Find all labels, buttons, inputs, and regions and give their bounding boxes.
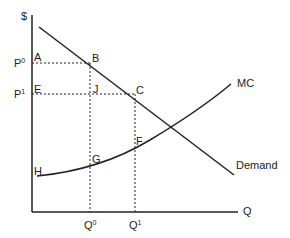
- demand-curve-label: Demand: [236, 160, 278, 171]
- y-axis-label: $: [21, 11, 27, 22]
- mc-curve: [37, 84, 231, 176]
- point-j-label: J: [93, 84, 99, 95]
- quantity-q1-label: Q1: [129, 220, 141, 231]
- point-h-label: H: [34, 166, 42, 177]
- x-axis-label: Q: [243, 206, 252, 217]
- price-p0-label: P0: [14, 58, 25, 69]
- point-b-label: B: [92, 53, 99, 64]
- point-e-label: E: [34, 84, 41, 95]
- point-a-label: A: [34, 52, 41, 63]
- demand-curve: [39, 27, 234, 175]
- point-c-label: C: [136, 85, 144, 96]
- mc-curve-label: MC: [237, 78, 254, 89]
- point-f-label: F: [136, 136, 143, 147]
- diagram-canvas: [0, 0, 290, 238]
- price-p1-label: P1: [14, 89, 25, 100]
- point-g-label: G: [92, 154, 101, 165]
- quantity-q0-label: Q0: [84, 220, 96, 231]
